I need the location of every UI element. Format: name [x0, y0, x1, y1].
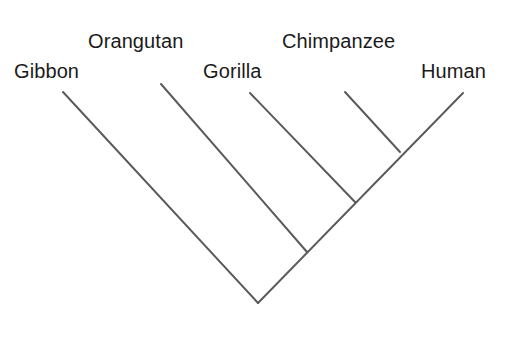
branch-main-lineage: [258, 93, 463, 303]
taxon-label-chimpanzee: Chimpanzee: [282, 31, 395, 51]
branch-gibbon: [63, 92, 258, 303]
cladogram-branches: [0, 0, 516, 338]
cladogram-diagram: Gibbon Orangutan Gorilla Chimpanzee Huma…: [0, 0, 516, 338]
branch-chimpanzee: [345, 92, 400, 152]
taxon-label-gorilla: Gorilla: [203, 61, 262, 81]
branch-gorilla: [250, 93, 355, 202]
branch-orangutan: [161, 84, 307, 252]
branch-line-group: [63, 84, 463, 303]
taxon-label-gibbon: Gibbon: [14, 61, 79, 81]
taxon-label-human: Human: [421, 61, 486, 81]
taxon-label-orangutan: Orangutan: [88, 31, 183, 51]
